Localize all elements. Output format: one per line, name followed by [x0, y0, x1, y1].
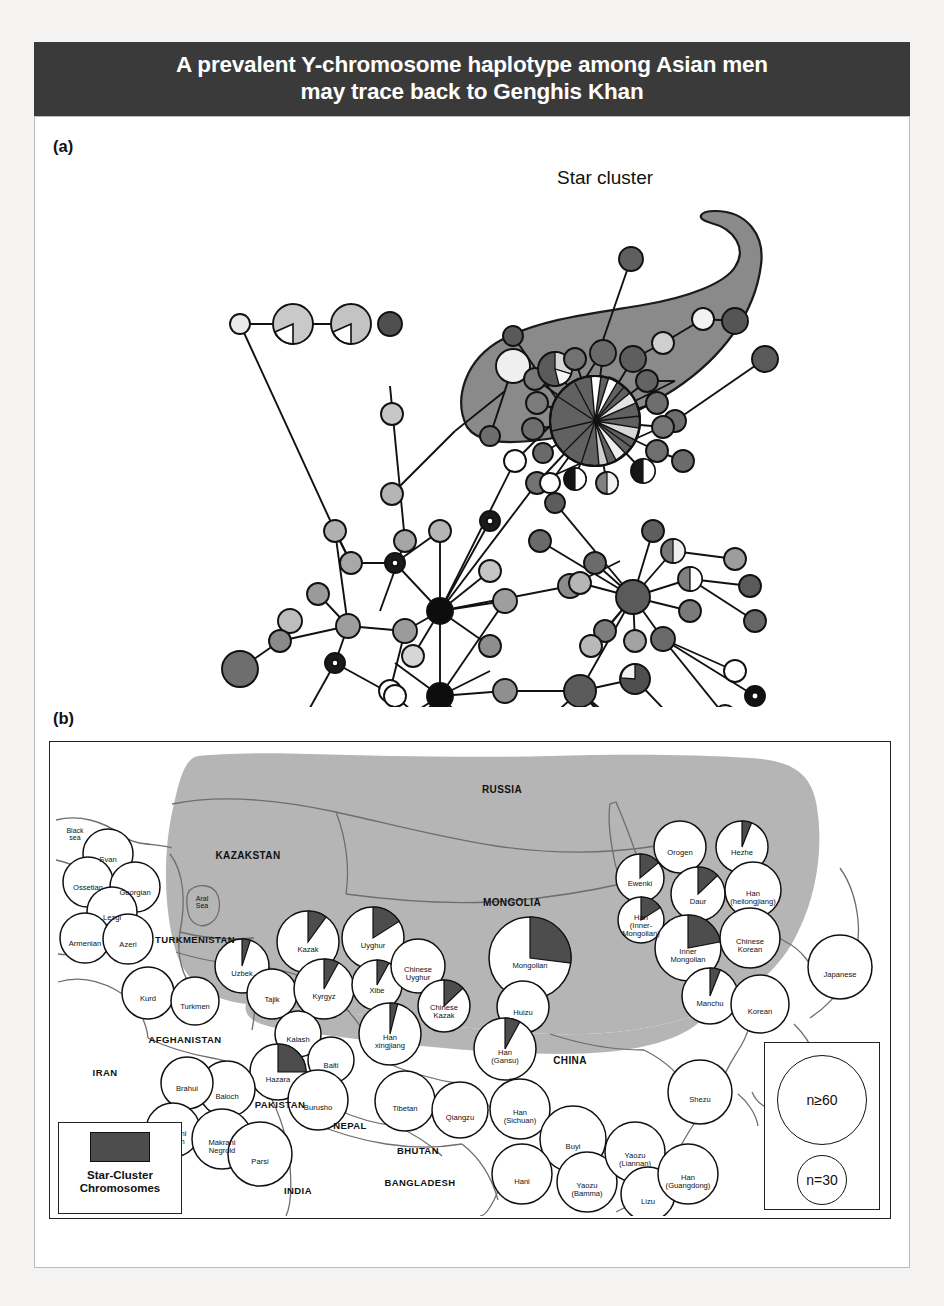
sample-size-legend: n≥60 n=30 [764, 1042, 880, 1210]
figure-page: A prevalent Y-chromosome haplotype among… [0, 0, 944, 1306]
population-pie [731, 975, 789, 1033]
title-line-1: A prevalent Y-chromosome haplotype among… [176, 51, 768, 78]
title-line-2: may trace back to Genghis Khan [176, 78, 768, 105]
star-cluster-central-node [550, 376, 640, 466]
star-cluster-swatch [90, 1132, 150, 1162]
population-pie [294, 959, 354, 1019]
population-pie [359, 1003, 421, 1065]
legend-large-label: n≥60 [806, 1092, 837, 1108]
population-pie [616, 854, 664, 902]
panel-b-label: (b) [53, 709, 74, 728]
population-pie [247, 969, 297, 1019]
population-pie [668, 1060, 732, 1124]
network-diagram [35, 131, 911, 707]
population-pie [228, 1122, 292, 1186]
population-pie [375, 1071, 435, 1131]
legend-circle-small: n=30 [797, 1155, 847, 1205]
population-pie [654, 821, 706, 873]
population-pie [808, 935, 872, 999]
population-pie [122, 967, 174, 1019]
population-pie [474, 1018, 536, 1080]
panel-a-network: Star cluster [35, 131, 911, 707]
population-pie [161, 1057, 213, 1109]
population-pie [171, 977, 219, 1025]
star-cluster-label: Star cluster [505, 167, 705, 189]
population-pie [418, 980, 470, 1032]
population-pie [671, 867, 725, 921]
population-pie [682, 968, 738, 1024]
population-pie [288, 1070, 348, 1130]
sea-label: Aral Sea [196, 895, 208, 910]
panel-b-map: RUSSIAKAZAKSTANMONGOLIATURKMENISTANAFGHA… [35, 731, 911, 1265]
legend-circle-large: n≥60 [777, 1055, 867, 1145]
star-cluster-legend-label: Star-Cluster Chromosomes [59, 1169, 181, 1195]
population-pie [492, 1144, 552, 1204]
population-pie [720, 908, 780, 968]
population-pie [103, 914, 153, 964]
legend-small-label: n=30 [806, 1172, 838, 1188]
population-pie [432, 1082, 488, 1138]
star-cluster-legend: Star-Cluster Chromosomes [58, 1122, 182, 1214]
map-frame: RUSSIAKAZAKSTANMONGOLIATURKMENISTANAFGHA… [49, 741, 891, 1219]
sea-label: Black sea [66, 827, 83, 842]
population-pie [658, 1144, 718, 1204]
figure-frame: (a) (b) [34, 116, 910, 1268]
figure-title-banner: A prevalent Y-chromosome haplotype among… [34, 42, 910, 116]
